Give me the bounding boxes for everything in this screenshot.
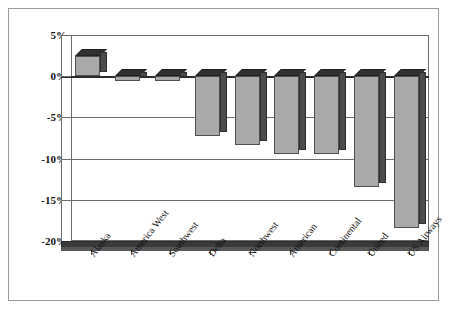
bar-side-face — [260, 72, 267, 141]
y-axis: 5%0%-5%-10%-15%-20% — [9, 35, 67, 241]
bar-front-face — [314, 76, 339, 153]
bar-column — [274, 69, 306, 153]
gridline-depth-edge — [61, 200, 71, 201]
bar-column — [195, 69, 227, 136]
bar-front-face — [235, 76, 260, 145]
bar-front-face — [274, 76, 299, 153]
gridline — [71, 35, 429, 36]
bar-column — [394, 69, 426, 228]
bar-column — [354, 69, 386, 186]
bar-column — [155, 69, 187, 81]
bar-front-face — [155, 76, 180, 81]
bar-side-face — [419, 72, 426, 224]
bar-side-face — [140, 72, 147, 77]
plot-area — [71, 35, 429, 241]
bar-side-face — [379, 72, 386, 182]
bar-front-face — [394, 76, 419, 228]
left-wall-3d — [61, 35, 71, 241]
gridline-depth-edge — [61, 35, 71, 36]
bar-front-face — [354, 76, 379, 186]
x-axis-labels: AlaskaAmerica WestSouthwestDeltaNorthwes… — [9, 249, 440, 309]
chart-frame: 5%0%-5%-10%-15%-20% AlaskaAmerica WestSo… — [8, 8, 439, 301]
bar-column — [115, 69, 147, 81]
gridline-depth-edge — [61, 117, 71, 118]
bar-side-face — [339, 72, 346, 149]
bar-column — [235, 69, 267, 145]
bar-front-face — [75, 56, 100, 77]
gridline — [71, 200, 429, 201]
gridline-depth-edge — [61, 76, 71, 77]
bar-column — [75, 49, 107, 77]
gridline-depth-edge — [61, 159, 71, 160]
bar-side-face — [100, 52, 107, 73]
bar-front-face — [195, 76, 220, 136]
bar-column — [314, 69, 346, 153]
bar-side-face — [299, 72, 306, 149]
bar-side-face — [220, 72, 227, 132]
bar-side-face — [180, 72, 187, 77]
bar-front-face — [115, 76, 140, 81]
